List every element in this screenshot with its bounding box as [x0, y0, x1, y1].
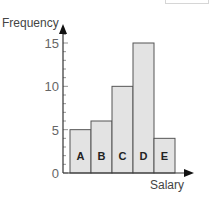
bar-label: B	[98, 150, 106, 162]
y-tick-label: 15	[45, 36, 59, 51]
bar-label: A	[77, 150, 85, 162]
histogram-chart: ABCDE 051015 Frequency Salary	[0, 0, 209, 204]
bar-label: D	[140, 150, 148, 162]
bar-label: E	[161, 150, 168, 162]
bar-label: C	[119, 150, 127, 162]
bar-b	[91, 121, 112, 173]
x-axis-label: Salary	[150, 178, 184, 192]
y-axis-ticks: 051015	[45, 34, 68, 181]
bars: ABCDE	[70, 43, 175, 173]
y-tick-label: 10	[45, 79, 59, 94]
y-axis-arrow-icon	[59, 24, 67, 34]
x-axis-arrow-icon	[184, 169, 194, 177]
y-tick-label: 0	[52, 166, 59, 181]
y-axis-label: Frequency	[2, 16, 59, 30]
y-tick-label: 5	[52, 123, 59, 138]
